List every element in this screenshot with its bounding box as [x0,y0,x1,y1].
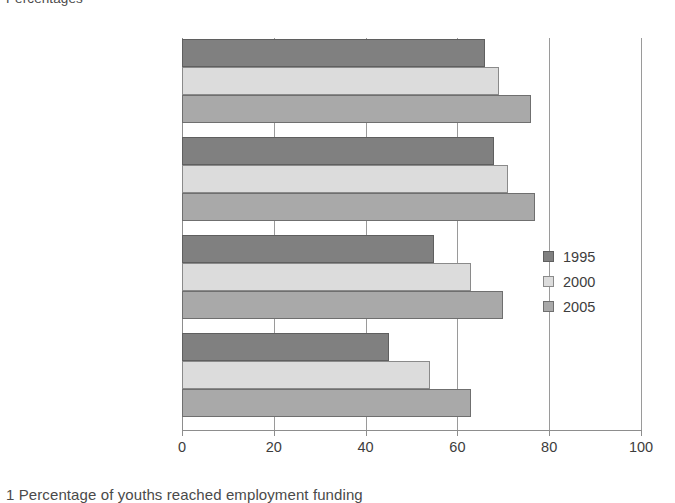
x-tick-40 [366,430,367,436]
legend-swatch-icon [543,301,554,312]
x-tick-20 [274,430,275,436]
chart-legend: 199520002005 [543,244,595,319]
figure-caption: 1 Percentage of youths reached employmen… [6,486,363,503]
x-tick-label: 100 [629,439,653,455]
bar [182,39,485,67]
bar [182,263,471,291]
x-tick-label: 60 [449,439,465,455]
legend-item[interactable]: 2000 [543,269,595,294]
bar [182,137,494,165]
legend-label: 2000 [563,274,595,290]
legend-item[interactable]: 2005 [543,294,595,319]
bar [182,291,503,319]
x-tick-0 [182,430,183,436]
plot-area [182,38,641,430]
bar [182,333,389,361]
legend-swatch-icon [543,251,554,262]
x-tick-label: 20 [266,439,282,455]
x-axis-line [182,430,641,431]
bar [182,67,499,95]
x-tick-100 [641,430,642,436]
legend-item[interactable]: 1995 [543,244,595,269]
gridline-80 [549,38,550,430]
legend-label: 1995 [563,249,595,265]
bar [182,193,535,221]
x-tick-label: 0 [178,439,186,455]
x-tick-label: 40 [358,439,374,455]
units-label: Percentages [6,0,83,6]
gridline-100 [641,38,642,430]
legend-label: 2005 [563,299,595,315]
bar [182,235,434,263]
x-tick-80 [549,430,550,436]
bar [182,165,508,193]
bar [182,389,471,417]
bar [182,361,430,389]
x-tick-60 [457,430,458,436]
legend-swatch-icon [543,276,554,287]
x-tick-label: 80 [541,439,557,455]
bar [182,95,531,123]
